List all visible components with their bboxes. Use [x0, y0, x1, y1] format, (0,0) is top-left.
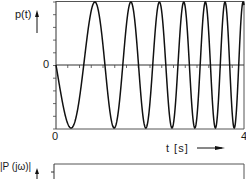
x-end-label: 4	[241, 131, 246, 141]
y-zero-label: 0	[43, 59, 49, 69]
x-zero-label: 0	[52, 131, 58, 141]
chart-svg	[0, 0, 246, 179]
P-axis-arrowhead	[35, 168, 39, 174]
P-axis-label: |P (jω)|	[0, 162, 31, 172]
t-axis-arrowhead	[215, 146, 225, 150]
p-axis-label: p(t)	[15, 9, 32, 19]
p-axis-arrowhead	[35, 10, 39, 17]
t-axis-label: t [s]	[166, 143, 189, 153]
